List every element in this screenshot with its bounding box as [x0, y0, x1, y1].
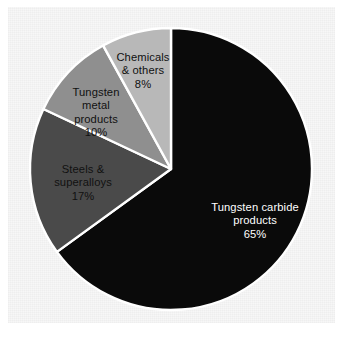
- pie-chart: Tungsten carbide products 65% Steels & s…: [0, 0, 343, 338]
- pie-chart-svg: [0, 0, 343, 338]
- pie-slice-group: [30, 28, 312, 310]
- figure-container: Tungsten carbide products 65% Steels & s…: [0, 0, 343, 338]
